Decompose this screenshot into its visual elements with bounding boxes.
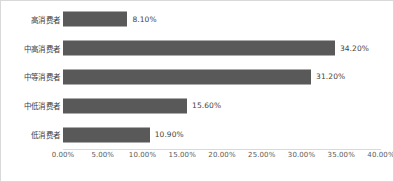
x-axis-tick-label: 20.00% (208, 151, 235, 159)
bar (63, 41, 335, 56)
bar-chart: 高消费者8.10%中高消费者34.20%中等消费者31.20%中低消费者15.6… (0, 0, 394, 182)
bar-value-label: 15.60% (192, 101, 221, 110)
x-axis-tick-label: 0.00% (52, 151, 75, 159)
plot-area: 高消费者8.10%中高消费者34.20%中等消费者31.20%中低消费者15.6… (63, 5, 381, 149)
x-axis-tick-label: 15.00% (169, 151, 196, 159)
bar (63, 12, 127, 27)
bar-row: 高消费者8.10% (63, 5, 381, 34)
bar-row: 中高消费者34.20% (63, 34, 381, 63)
bar (63, 98, 187, 113)
category-label: 高消费者 (31, 5, 60, 34)
category-label: 中高消费者 (24, 34, 60, 63)
x-axis-line (63, 149, 381, 150)
x-axis-tick-label: 40.00% (367, 151, 394, 159)
bar-row: 中低消费者15.60% (63, 91, 381, 120)
x-axis-tick-label: 35.00% (328, 151, 355, 159)
bar-value-label: 34.20% (340, 44, 369, 53)
category-label: 中低消费者 (24, 91, 60, 120)
category-label: 中等消费者 (24, 63, 60, 92)
bar-track: 31.20% (63, 69, 381, 84)
bar-value-label: 10.90% (155, 130, 184, 139)
x-axis-tick-label: 10.00% (129, 151, 156, 159)
bar-track: 8.10% (63, 12, 381, 27)
x-axis-tick-label: 25.00% (248, 151, 275, 159)
category-label: 低消费者 (31, 120, 60, 149)
bar-value-label: 31.20% (316, 72, 345, 81)
x-axis-tick-labels: 0.00%5.00%10.00%15.00%20.00%25.00%30.00%… (63, 151, 381, 165)
bar (63, 69, 311, 84)
bar (63, 127, 150, 142)
x-axis-tick-label: 30.00% (288, 151, 315, 159)
bar-track: 34.20% (63, 41, 381, 56)
x-axis-tick-label: 5.00% (91, 151, 114, 159)
bar-row: 中等消费者31.20% (63, 63, 381, 92)
bar-value-label: 8.10% (132, 15, 156, 24)
bar-track: 10.90% (63, 127, 381, 142)
bar-row: 低消费者10.90% (63, 120, 381, 149)
bar-track: 15.60% (63, 98, 381, 113)
